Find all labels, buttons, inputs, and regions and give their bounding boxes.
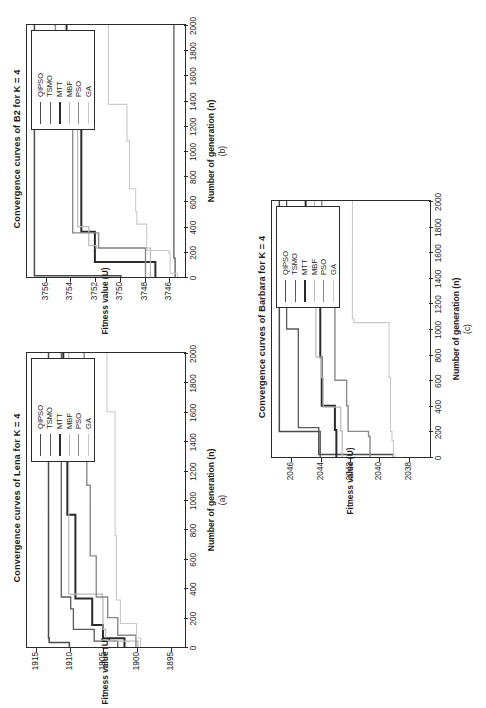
legend-label: PSO	[75, 81, 83, 97]
panel-c-plot: QIPSOTSMOMTTMBFPSOGA 0200400600800100012…	[255, 190, 475, 500]
legend-item-pso: PSO	[319, 212, 328, 302]
legend-label: QIPSO	[37, 405, 45, 429]
panel-a-plot: QIPSOTSMOMTTMBFPSOGA 0200400600800100012…	[10, 340, 230, 690]
x-tick-label: 1400	[189, 89, 198, 115]
x-tick	[184, 471, 188, 472]
x-tick-label: 1000	[189, 139, 198, 165]
x-tick-label: 2000	[434, 189, 443, 215]
x-tick-label: 0	[434, 445, 443, 471]
legend-swatch-pso	[78, 102, 79, 124]
x-tick	[184, 176, 188, 177]
legend-label: PSO	[320, 259, 328, 275]
x-tick	[184, 500, 188, 501]
x-tick	[184, 588, 188, 589]
legend-swatch-ga	[88, 434, 89, 456]
x-tick-label: 1000	[434, 317, 443, 343]
x-tick	[184, 201, 188, 202]
legend-swatch-mtt	[59, 434, 61, 456]
legend-item-tsmo: TSMO	[46, 36, 55, 124]
legend-item-mtt: MTT	[55, 364, 64, 456]
series-line-tsmo	[174, 25, 175, 277]
x-tick-label: 400	[189, 215, 198, 241]
legend-swatch-tsmo	[295, 280, 296, 302]
legend-label: MTT	[56, 413, 64, 429]
x-tick-label: 2000	[189, 13, 198, 39]
panel-a-legend: QIPSOTSMOMTTMBFPSOGA	[31, 358, 95, 462]
panel-a-letter: (a)	[217, 352, 227, 648]
series-line-ga	[106, 353, 140, 647]
x-tick	[184, 412, 188, 413]
legend-label: MTT	[301, 259, 309, 275]
x-tick-label: 1600	[189, 63, 198, 89]
panel-a-x-axis-label: Number of generation (n)	[206, 352, 216, 648]
x-tick	[184, 559, 188, 560]
x-tick-label: 1000	[189, 488, 198, 514]
legend-swatch-pso	[323, 280, 324, 302]
legend-item-ga: GA	[84, 364, 93, 456]
panel-c-legend: QIPSOTSMOMTTMBFPSOGA	[276, 206, 340, 308]
x-tick	[184, 382, 188, 383]
x-tick	[429, 252, 433, 253]
legend-item-qipso: QIPSO	[36, 36, 45, 124]
x-tick	[429, 355, 433, 356]
x-tick-label: 1800	[189, 370, 198, 396]
x-tick-label: 200	[189, 606, 198, 632]
x-tick-label: 1800	[434, 215, 443, 241]
legend-item-ga: GA	[84, 36, 93, 124]
x-tick-label: 400	[189, 576, 198, 602]
legend-swatch-mtt	[59, 102, 61, 124]
y-tick-label: 1915	[31, 652, 40, 688]
legend-label: GA	[330, 264, 338, 275]
legend-label: TSMO	[46, 75, 54, 97]
legend-swatch-mbf	[69, 434, 70, 456]
legend-swatch-qipso	[40, 434, 41, 456]
panel-c-x-axis-label: Number of generation (n)	[451, 200, 461, 458]
legend-swatch-pso	[78, 434, 79, 456]
x-tick	[184, 151, 188, 152]
legend-swatch-ga	[333, 280, 334, 302]
legend-item-mtt: MTT	[300, 212, 309, 302]
x-tick	[429, 380, 433, 381]
x-tick-label: 2000	[189, 341, 198, 367]
series-line-ga	[108, 25, 177, 277]
legend-swatch-qipso	[285, 280, 286, 302]
x-tick-label: 800	[189, 164, 198, 190]
x-tick	[429, 278, 433, 279]
legend-label: QIPSO	[37, 73, 45, 97]
panel-c-letter: (c)	[462, 200, 472, 458]
y-tick-label: 2046	[286, 462, 295, 498]
y-tick-label: 3748	[140, 282, 149, 318]
panel-a-y-axis-label: Fitness value (U)	[100, 616, 110, 708]
panel-b-y-axis-label: Fitness value (U)	[100, 246, 110, 356]
x-tick-label: 1600	[434, 240, 443, 266]
legend-item-mbf: MBF	[65, 36, 74, 124]
x-tick	[184, 647, 188, 648]
legend-label: PSO	[75, 413, 83, 429]
legend-label: MTT	[56, 81, 64, 97]
panel-c-y-axis-label: Fitness value (U)	[345, 426, 355, 536]
legend-label: MBF	[66, 81, 74, 97]
y-tick-label: 2044	[316, 462, 325, 498]
y-tick-label: 2040	[374, 462, 383, 498]
x-tick	[184, 277, 188, 278]
y-tick-label: 1910	[65, 652, 74, 688]
legend-label: QIPSO	[282, 251, 290, 275]
x-tick	[184, 227, 188, 228]
panel-b: Convergence curves of B2 for K = 4 QIPSO…	[10, 15, 230, 320]
panel-b-legend: QIPSOTSMOMTTMBFPSOGA	[31, 30, 95, 130]
x-tick	[184, 441, 188, 442]
legend-label: GA	[85, 418, 93, 429]
y-tick-label: 3754	[65, 282, 74, 318]
panel-b-plot: QIPSOTSMOMTTMBFPSOGA 0200400600800100012…	[10, 15, 230, 320]
x-tick-label: 1400	[434, 266, 443, 292]
x-tick-label: 0	[189, 635, 198, 661]
x-tick	[184, 252, 188, 253]
x-tick	[429, 329, 433, 330]
y-tick-label: 3756	[41, 282, 50, 318]
x-tick	[184, 353, 188, 354]
legend-label: TSMO	[291, 253, 299, 275]
legend-swatch-mtt	[304, 280, 306, 302]
x-tick-label: 1600	[189, 400, 198, 426]
x-tick	[184, 101, 188, 102]
y-tick-label: 1900	[132, 652, 141, 688]
